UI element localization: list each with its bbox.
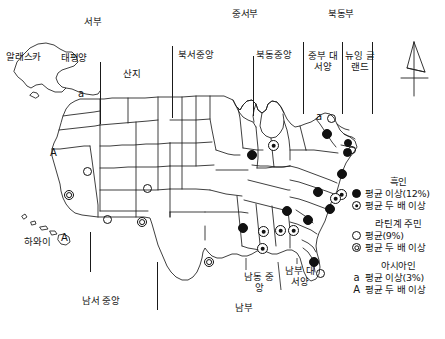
legend-row-latino-average: 평균(9%) [352,230,445,241]
marker-newmexico-latino [137,217,147,227]
north-arrow-icon [397,38,431,100]
legend: 흑인 평균 이상(12%) 평균 두 배 이상 라틴계 주민 평균(9%) 평균… [352,176,445,302]
marker-arkansas-black [238,223,248,233]
marker-illinois-black [247,150,257,160]
divider-west-north-central [253,56,254,116]
division-label-west-south-central: 남서 중앙 [73,296,129,307]
legend-label-asian-above: 평균 이상(3%) [365,272,424,283]
region-label-northeast: 북동부 [316,9,366,20]
divider-new-england [372,42,373,114]
marker-california-asian: A [50,148,57,158]
marker-texas-latino [204,257,214,267]
division-label-east-north-central: 북동중앙 [248,50,300,61]
letter-a-upper-icon: A [352,285,361,294]
legend-group-asian: 아시아인 a 평균 이상(3%) A 평균 두 배 이상 [352,260,445,295]
marker-northcarolina-black [325,204,335,214]
division-label-east-south-central: 남동 중앙 [244,272,274,293]
filled-circle-icon [352,189,361,198]
marker-florida-black [309,257,319,267]
marker-mississippi-black [258,226,269,237]
legend-group-latino: 라틴계 주민 평균(9%) 평균 두 배 이상 [352,218,445,253]
legend-row-asian-above: a 평균 이상(3%) [352,272,445,283]
division-label-pacific: 태평양 [52,53,96,64]
legend-heading-asian: 아시아인 [352,260,445,271]
legend-row-black-above: 평균 이상(12%) [352,188,445,199]
marker-tennessee-black [282,206,292,216]
legend-row-asian-double: A 평균 두 배 이상 [352,284,445,295]
legend-heading-black: 흑인 [352,176,445,187]
region-label-midwest: 중서부 [220,9,270,20]
legend-label-black-above: 평균 이상(12%) [365,188,430,199]
marker-louisiana-black [257,243,268,254]
marker-newjersey-black [343,148,352,157]
marker-colorado-latino [143,184,152,193]
divider-west-south-central [90,232,91,272]
marker-dc-black [330,193,341,204]
double-circle-icon [352,243,361,252]
marker-hawaii-asian: A [61,233,68,243]
legend-row-black-double: 평균 두 배 이상 [352,200,445,211]
marker-washington-asian: a [78,89,84,99]
division-label-west-north-central: 북서중앙 [170,50,222,61]
divider-east-north-central [303,42,304,114]
legend-label-black-double: 평균 두 배 이상 [365,200,425,211]
marker-virginia-black [313,187,323,197]
ring-filled-circle-icon [352,201,361,210]
marker-arizona-latino [103,215,112,224]
region-label-west: 서부 [72,17,114,28]
marker-newyork-latino [327,114,336,123]
divider-mountain [172,46,173,118]
marker-michigan-black [268,140,279,151]
legend-group-black: 흑인 평균 이상(12%) 평균 두 배 이상 [352,176,445,211]
divider-middle-atlantic [342,42,343,114]
marker-newyork-asian: a [316,112,322,122]
division-label-south: 남부 [227,303,261,314]
marker-newyork-metro-black [344,139,352,147]
legend-label-asian-double: 평균 두 배 이상 [365,284,425,295]
marker-southcarolina-black [303,215,313,225]
marker-maryland-black [337,169,347,179]
place-label-alaska: 알래스카 [6,52,41,63]
divider-south [157,262,158,310]
legend-label-latino-average: 평균(9%) [365,230,404,241]
figure-root: 서부 중서부 북동부 태평양 산지 북서중앙 북동중앙 중부 대서양 뉴잉 글랜… [0,0,445,339]
marker-pennsylvania-black [322,129,332,139]
letter-a-lower-icon: a [352,273,361,282]
legend-row-latino-double: 평균 두 배 이상 [352,242,445,253]
divider-pacific [100,62,101,124]
division-label-south-atlantic: 남부 대서양 [283,266,317,287]
division-label-mountain: 산지 [114,69,150,80]
marker-nevada-latino [83,167,92,176]
marker-georgia-black [288,225,299,236]
place-label-hawaii: 하와이 [24,237,50,248]
hollow-circle-icon [352,231,361,240]
legend-heading-latino: 라틴계 주민 [352,218,445,229]
marker-alabama-black [275,225,286,236]
legend-label-latino-double: 평균 두 배 이상 [365,242,425,253]
division-label-middle-atlantic: 중부 대서양 [306,51,340,72]
marker-california-latino [64,190,74,200]
marker-florida-latino [316,269,325,278]
